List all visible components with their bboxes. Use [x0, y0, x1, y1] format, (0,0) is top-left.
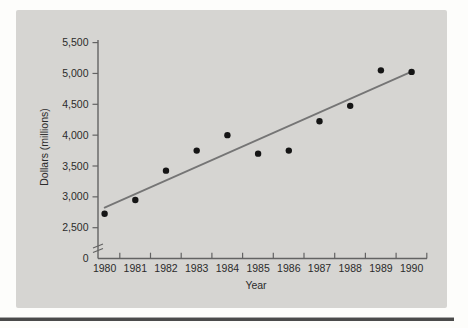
data-point-1981 [132, 197, 138, 203]
y-axis-tick-label: 5,000 [62, 67, 88, 79]
y-axis-zero-label: 0 [83, 252, 89, 264]
y-axis-tick-label: 5,500 [62, 36, 88, 48]
scatter-chart: 5,5005,0004,5004,0003,5003,0002,50001980… [0, 0, 468, 328]
x-axis-tick-label: 1980 [93, 262, 117, 274]
bottom-rule [0, 317, 454, 321]
x-axis-tick-label: 1981 [124, 262, 148, 274]
x-axis-tick-label: 1989 [369, 262, 393, 274]
x-axis-tick-label: 1982 [154, 262, 178, 274]
x-axis-tick-label: 1984 [216, 262, 240, 274]
x-axis-tick-label: 1983 [185, 262, 209, 274]
figure-page: 5,5005,0004,5004,0003,5003,0002,50001980… [0, 0, 468, 328]
data-point-1983 [194, 147, 200, 153]
x-axis-title: Year [245, 279, 267, 291]
data-point-1985 [255, 150, 261, 156]
data-point-1990 [408, 69, 414, 75]
data-point-1989 [378, 67, 384, 73]
data-point-1986 [286, 147, 292, 153]
x-axis-tick-label: 1985 [246, 262, 270, 274]
data-point-1984 [224, 132, 230, 138]
x-axis-tick-label: 1988 [339, 262, 363, 274]
data-point-1980 [101, 211, 107, 217]
y-axis-tick-label: 3,500 [62, 160, 88, 172]
y-axis-title: Dollars (millions) [38, 108, 50, 186]
y-axis-tick-label: 2,500 [62, 221, 88, 233]
data-point-1988 [347, 103, 353, 109]
x-axis-tick-label: 1987 [308, 262, 332, 274]
x-axis-tick-label: 1986 [277, 262, 301, 274]
x-axis-tick-label: 1990 [400, 262, 424, 274]
y-axis-tick-label: 4,000 [62, 129, 88, 141]
trend-line [105, 72, 412, 208]
y-axis-tick-label: 3,000 [62, 190, 88, 202]
data-point-1987 [316, 118, 322, 124]
data-point-1982 [163, 167, 169, 173]
y-axis-tick-label: 4,500 [62, 98, 88, 110]
